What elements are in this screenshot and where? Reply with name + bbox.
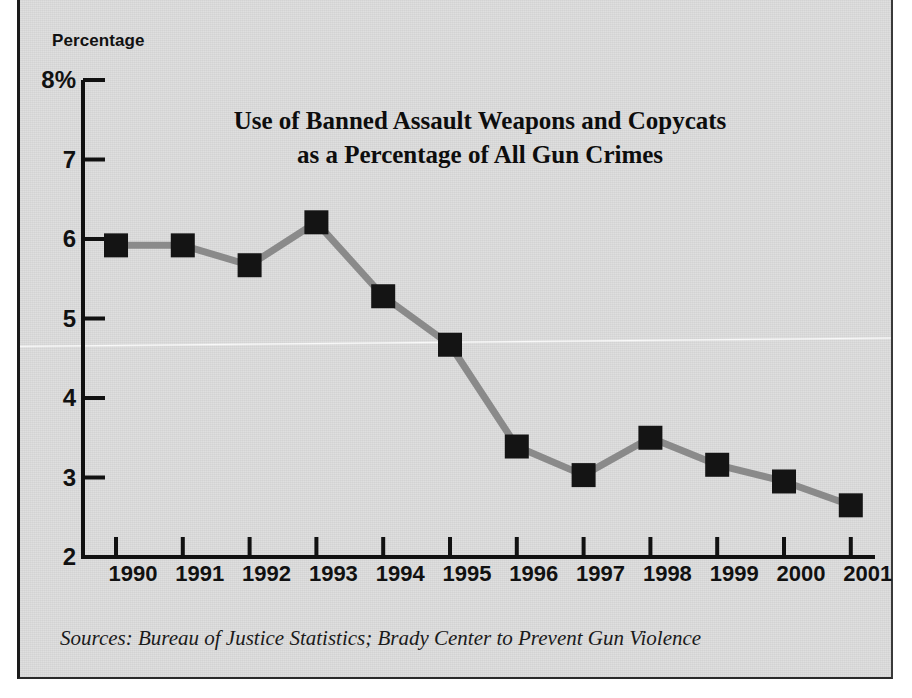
plot-area	[20, 0, 896, 679]
y-axis-ticks	[83, 80, 105, 557]
source-attribution: Sources: Bureau of Justice Statistics; B…	[60, 626, 701, 651]
figure-page: Percentage Use of Banned Assault Weapons…	[0, 0, 912, 698]
data-point-2000	[772, 469, 796, 493]
data-point-1993	[304, 210, 328, 234]
data-point-2001	[839, 493, 863, 517]
data-point-1991	[171, 233, 195, 257]
axis-lines	[83, 80, 875, 557]
data-point-1996	[505, 434, 529, 458]
data-point-1995	[438, 333, 462, 357]
data-point-1992	[238, 253, 262, 277]
data-point-1990	[104, 233, 128, 257]
chart-panel: Percentage Use of Banned Assault Weapons…	[17, 0, 893, 679]
data-line	[116, 222, 851, 505]
data-point-1994	[371, 284, 395, 308]
data-point-1999	[705, 453, 729, 477]
data-point-1997	[572, 463, 596, 487]
x-axis-ticks	[116, 537, 851, 557]
data-point-1998	[638, 426, 662, 450]
